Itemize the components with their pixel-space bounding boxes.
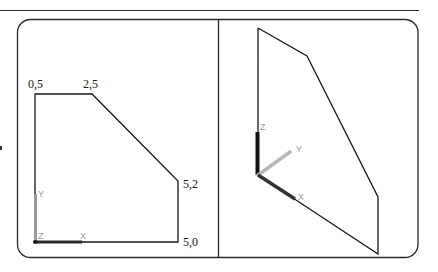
diagram-canvas: 0,5 2,5 5,2 5,0 Y Z X Z Y X — [0, 0, 438, 272]
edge-mark — [0, 146, 2, 150]
right-panel: Z Y X — [258, 28, 379, 254]
vertex-label-5-0: 5,0 — [183, 235, 198, 249]
iso-profile — [258, 28, 378, 254]
axis-triad-iso-icon: Z Y X — [258, 122, 305, 202]
y-axis-icon — [258, 152, 290, 175]
origin-dot-icon — [33, 240, 37, 244]
left-panel: 0,5 2,5 5,2 5,0 Y Z X — [28, 77, 198, 249]
z-axis-label: Z — [260, 122, 266, 132]
vertex-label-2-5: 2,5 — [83, 77, 98, 91]
vertex-label-0-5: 0,5 — [28, 77, 43, 91]
x-axis-icon — [258, 175, 295, 199]
frame — [18, 20, 419, 258]
axis-triad-2d-icon: Y Z X — [33, 189, 86, 244]
z-axis-label: Z — [38, 231, 44, 241]
y-axis-label: Y — [38, 189, 44, 199]
sketch-profile — [35, 94, 178, 242]
y-axis-label: Y — [296, 144, 302, 154]
x-axis-label: X — [298, 192, 304, 202]
x-axis-label: X — [80, 231, 86, 241]
vertex-label-5-2: 5,2 — [183, 177, 198, 191]
